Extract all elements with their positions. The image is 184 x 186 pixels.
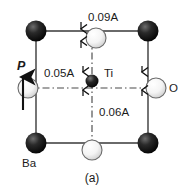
batio3-unit-cell-diagram: 0.09A 0.05A 0.06A Ti O Ba P (a) [0,0,184,186]
figure-caption: (a) [85,171,100,185]
atom-o-left [18,78,38,98]
atom-ba-top-left [26,21,47,42]
label-top-oxygen-displacement: 0.09A [88,11,118,23]
atom-ba-bottom-left [26,133,47,154]
label-atom-ti: Ti [104,67,113,79]
atom-o-right [146,78,166,98]
label-polarization-p: P [17,59,26,73]
atom-o-top [86,28,106,48]
label-side-oxygen-displacement: 0.05A [44,67,74,79]
atom-o-bottom [82,140,102,160]
label-atom-o: O [169,82,178,94]
atom-ti-center [86,75,99,88]
label-atom-ba: Ba [22,157,37,169]
label-titanium-displacement: 0.06A [99,106,129,118]
atom-ba-bottom-right [138,133,159,154]
internal-axes [28,38,156,150]
atom-ba-top-right [138,21,159,42]
figure-container: 0.09A 0.05A 0.06A Ti O Ba P (a) [0,0,184,186]
